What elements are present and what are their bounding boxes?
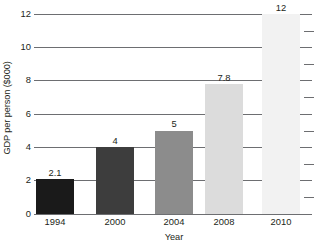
y-axis-ticks: 12 10 8 6 4 2 0 (0, 0, 31, 215)
x-tick-label-2008: 2008 (199, 217, 249, 226)
bar-2010[interactable]: 12 (262, 14, 300, 214)
bar-2000[interactable]: 4 (96, 147, 134, 214)
bar-value-label: 7.8 (217, 73, 230, 82)
x-tick-label-2004: 2004 (149, 217, 199, 226)
y-tick-label: 6 (1, 109, 31, 118)
x-axis-title-label: Year (165, 232, 184, 242)
bar-value-label: 2.1 (48, 168, 61, 177)
plot-area: 2.1 4 5 7.8 12 (34, 0, 314, 215)
x-axis-title: Year (34, 232, 314, 242)
y-tick-label: 12 (1, 9, 31, 18)
x-tick-label-1994: 1994 (30, 217, 80, 226)
x-tick-label-2000: 2000 (90, 217, 140, 226)
bar-value-label: 5 (171, 119, 176, 128)
y-tick-label: 2 (1, 175, 31, 184)
right-stub-tick (304, 64, 314, 65)
bar-1994[interactable]: 2.1 (36, 179, 74, 214)
y-tick-label: 8 (1, 75, 31, 84)
y-tick-label: 4 (1, 142, 31, 151)
bar-chart: GDP per person ($000) 12 10 8 6 4 2 0 2.… (0, 0, 314, 249)
right-stub-tick (304, 164, 314, 165)
bar-value-label: 12 (276, 3, 286, 12)
bar-2004[interactable]: 5 (155, 131, 193, 214)
bar-value-label: 4 (112, 136, 117, 145)
x-axis-line (34, 214, 312, 215)
y-tick-label: 0 (1, 209, 31, 218)
right-stub-tick (304, 31, 314, 32)
y-tick-label: 10 (1, 42, 31, 51)
x-tick-label-2010: 2010 (256, 217, 306, 226)
x-axis-ticks: 1994 2000 2004 2008 2010 (34, 217, 314, 231)
right-stub-tick (304, 197, 314, 198)
right-stub-tick (304, 97, 314, 98)
right-stub-tick (304, 131, 314, 132)
bar-2008[interactable]: 7.8 (205, 84, 243, 214)
